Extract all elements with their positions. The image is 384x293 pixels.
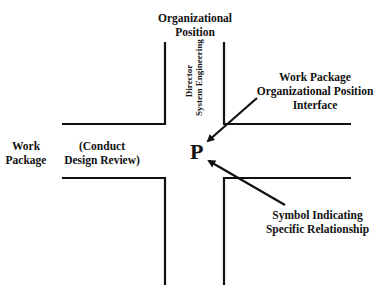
- vertical-label: Director System Engineering: [184, 46, 204, 116]
- right-top-label: Work Package Organizational Position Int…: [255, 70, 375, 112]
- top-label: Organizational Position: [150, 11, 240, 39]
- left-label: Work Package: [5, 139, 47, 167]
- right-bottom-label: Symbol Indicating Specific Relationship: [265, 208, 370, 236]
- relationship-symbol: P: [190, 139, 203, 165]
- center-left-label: (Conduct Design Review): [62, 139, 142, 167]
